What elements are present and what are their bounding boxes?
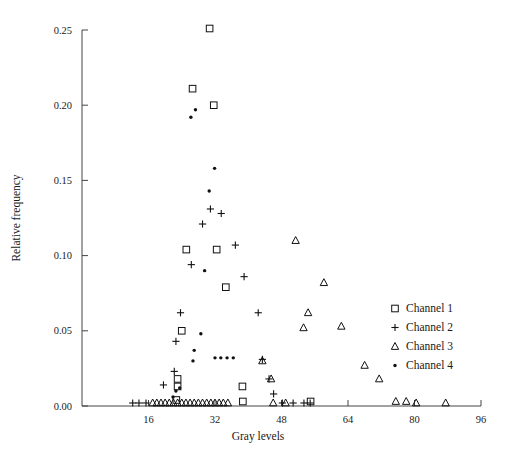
x-tick-label: 64 xyxy=(343,414,354,425)
data-point-dot xyxy=(194,108,197,111)
legend-marker-plus-icon xyxy=(391,324,398,331)
scatter-plot: 0.000.050.100.150.200.25163248648096 Cha… xyxy=(0,0,515,454)
data-point-plus xyxy=(160,381,167,388)
data-point-square xyxy=(213,246,220,253)
y-tick-label: 0.05 xyxy=(54,325,72,336)
data-point-triangle xyxy=(375,375,382,382)
data-point-square xyxy=(223,284,230,291)
data-point-plus xyxy=(218,210,225,217)
x-tick-label: 80 xyxy=(409,414,420,425)
data-point-dot xyxy=(203,269,206,272)
legend-label: Channel 4 xyxy=(406,359,453,371)
data-point-plus xyxy=(232,241,239,248)
data-point-triangle xyxy=(361,361,368,368)
x-tick-label: 32 xyxy=(210,414,221,425)
data-point-dot xyxy=(232,356,235,359)
x-tick-label: 48 xyxy=(276,414,287,425)
data-point-plus xyxy=(255,309,262,316)
data-point-square xyxy=(210,102,217,109)
data-point-plus xyxy=(177,309,184,316)
data-point-triangle xyxy=(442,399,449,406)
data-point-dot xyxy=(191,359,194,362)
y-axis-label: Relative frequency xyxy=(10,174,23,261)
data-point-dot xyxy=(174,389,177,392)
legend-marker-square-icon xyxy=(392,305,399,312)
data-point-triangle xyxy=(412,399,419,406)
data-point-square xyxy=(240,398,247,405)
data-point-dot xyxy=(171,395,174,398)
data-point-triangle xyxy=(392,397,399,404)
data-point-triangle xyxy=(282,399,289,406)
y-tick-label: 0.25 xyxy=(54,25,72,36)
legend-marker-triangle-icon xyxy=(391,343,398,350)
data-point-triangle xyxy=(338,322,345,329)
data-point-dot xyxy=(219,356,222,359)
data-point-square xyxy=(206,25,213,32)
data-point-dot xyxy=(193,349,196,352)
data-point-square xyxy=(178,328,185,335)
data-point-dot xyxy=(213,167,216,170)
x-tick-label: 96 xyxy=(476,414,487,425)
data-point-triangle xyxy=(403,397,410,404)
data-point-triangle xyxy=(320,279,327,286)
y-tick-label: 0.15 xyxy=(54,175,72,186)
data-point-dot xyxy=(213,356,216,359)
legend: Channel 1Channel 2Channel 3Channel 4 xyxy=(391,302,453,371)
data-point-square xyxy=(183,246,190,253)
y-tick-label: 0.10 xyxy=(54,250,72,261)
data-point-dot xyxy=(225,356,228,359)
data-point-plus xyxy=(172,338,179,345)
legend-marker-dot-icon xyxy=(393,364,396,367)
data-point-square xyxy=(174,376,181,383)
data-point-triangle xyxy=(300,324,307,331)
data-point-plus xyxy=(240,273,247,280)
x-tick-label: 16 xyxy=(143,414,154,425)
data-point-dot xyxy=(199,332,202,335)
data-point-dot xyxy=(178,386,181,389)
x-axis-label: Gray levels xyxy=(232,430,285,443)
legend-label: Channel 1 xyxy=(406,302,453,314)
data-point-square xyxy=(189,85,196,92)
data-point-triangle xyxy=(292,237,299,244)
data-point-triangle xyxy=(270,399,277,406)
data-point-plus xyxy=(199,220,206,227)
data-point-square xyxy=(239,383,246,390)
data-markers xyxy=(129,25,449,406)
y-tick-label: 0.00 xyxy=(54,401,72,412)
data-point-plus xyxy=(171,368,178,375)
data-point-dot xyxy=(207,189,210,192)
data-point-plus xyxy=(188,261,195,268)
data-point-plus xyxy=(270,390,277,397)
data-point-triangle xyxy=(304,309,311,316)
y-tick-label: 0.20 xyxy=(54,100,72,111)
data-point-dot xyxy=(189,116,192,119)
legend-label: Channel 2 xyxy=(406,321,453,333)
legend-label: Channel 3 xyxy=(406,340,453,352)
data-point-plus xyxy=(207,205,214,212)
